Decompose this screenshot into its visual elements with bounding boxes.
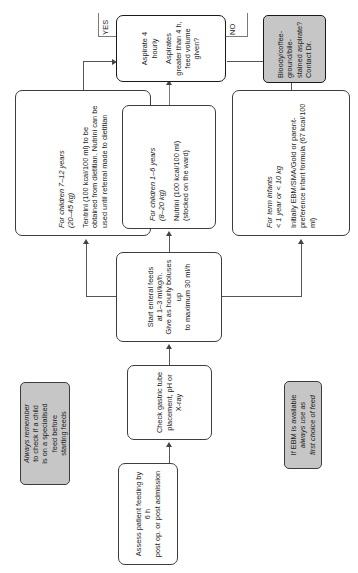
node-check-gastric-tube-line-2: placement, pH or X-ray: [165, 371, 184, 434]
note-specialised-feed-line-5: starting feeds: [59, 387, 68, 480]
edge-label-yes: YES: [101, 19, 110, 36]
arrowhead-branch-to-children-7-12: [83, 239, 89, 244]
note-aspirate-alert: Bloody/coffee- ground/bile- stained aspi…: [263, 15, 326, 83]
rotated-diagram-wrapper: Always remember to check if a child is o…: [0, 0, 358, 573]
note-ebm-line-1: If EBM is available: [289, 386, 298, 464]
note-specialised-feed-line-2: to check if a child: [31, 387, 40, 480]
node-children-7-12-subheading: (20–45 kg): [66, 98, 75, 228]
note-specialised-feed-line-1: Always remember: [22, 387, 31, 480]
arrowhead-check-to-start: [166, 344, 172, 349]
node-start-enteral-feeds: Start enteral feeds at 1–3 ml/kg/h. Give…: [116, 252, 222, 342]
connector-assess-to-check: [169, 446, 170, 463]
note-aspirate-alert-line-2: ground/bile-: [285, 20, 294, 78]
node-start-feeds-line-4: to maximum 30 ml/h: [183, 258, 192, 336]
connector-branch-bottom: [301, 243, 302, 297]
connector-start-to-children-1-6: [169, 235, 170, 252]
note-ebm-line-2: always use as: [298, 386, 307, 464]
node-assess-patient-line-1: Assess patient feeding by 6 h: [134, 469, 153, 559]
node-aspirate-line-1: Aspirate 4 hourly: [140, 21, 159, 76]
node-term-infants-heading: For term infants: [265, 98, 274, 228]
node-start-feeds-line-1: Start enteral feeds: [146, 258, 155, 336]
note-aspirate-alert-line-1: Bloody/coffee-: [276, 20, 285, 78]
note-specialised-feed-line-3: is on a specialised: [40, 387, 49, 480]
edge-label-no: NO: [228, 23, 237, 37]
flowchart-canvas: Always remember to check if a child is o…: [0, 0, 358, 573]
node-assess-patient-line-2: post op. or post admission: [153, 469, 162, 559]
node-children-7-12-body: Tentrini (100 kcal/100 ml) to be obtaine…: [81, 98, 109, 228]
node-children-1-6-years: For children 1–6 years (8–20 kg) Nutrini…: [122, 105, 216, 229]
connector-branch-top: [86, 243, 87, 297]
arrowhead-start-to-children-1-6: [166, 231, 172, 236]
node-children-1-6-body: Nutrini (100 kcal/100 ml) (stocked on th…: [172, 113, 191, 221]
node-aspirate-decision: Aspirate 4 hourly Aspirates greater than…: [116, 15, 226, 82]
node-aspirate-line-2: Aspirates greater than 4 h, feed volume …: [164, 21, 202, 76]
node-children-1-6-subheading: (8–20 kg): [157, 113, 166, 221]
note-specialised-feed-line-4: feed before: [50, 387, 59, 480]
note-specialised-feed: Always remember to check if a child is o…: [20, 382, 70, 485]
node-start-feeds-line-3: Give as hourly boluses up: [164, 258, 183, 336]
connector-children-7-12-drop: [83, 61, 115, 62]
node-term-infants-subheading: < 1 year or < 10 kg: [274, 98, 283, 228]
note-ebm-line-3: first choice of feed: [308, 386, 317, 464]
note-aspirate-alert-line-4: Contact Dr.: [304, 20, 313, 78]
connector-children-7-12-to-aspirate: [83, 61, 84, 90]
connector-branch-spine-up: [86, 296, 116, 297]
node-check-gastric-tube-line-1: Check gastric tube: [155, 371, 164, 434]
connector-no-drop: [226, 36, 248, 37]
node-check-gastric-tube: Check gastric tube placement, pH or X-ra…: [127, 365, 212, 440]
node-assess-patient: Assess patient feeding by 6 h post op. o…: [118, 463, 178, 565]
connector-children-1-6-to-aspirate: [169, 82, 170, 105]
arrowhead-assess-to-check: [166, 442, 172, 447]
connector-yes-riser: [98, 36, 116, 37]
connector-yes-run: [98, 13, 99, 37]
connector-no-run: [247, 13, 248, 37]
arrowhead-branch-to-term-infants: [298, 239, 304, 244]
node-children-7-12-heading: For children 7–12 years: [57, 98, 66, 228]
node-term-infants: For term infants < 1 year or < 10 kg Ini…: [232, 90, 350, 236]
connector-branch-spine-down: [222, 296, 302, 297]
node-term-infants-body: Initially EBM/SMA/Gold or parent-prefere…: [289, 98, 317, 228]
connector-check-to-start: [169, 348, 170, 365]
note-aspirate-alert-line-3: stained aspirate?: [295, 20, 304, 78]
node-children-1-6-heading: For children 1–6 years: [148, 113, 157, 221]
note-ebm-first-choice: If EBM is available always use as first …: [284, 381, 322, 469]
node-start-feeds-line-2: at 1–3 ml/kg/h.: [155, 258, 164, 336]
